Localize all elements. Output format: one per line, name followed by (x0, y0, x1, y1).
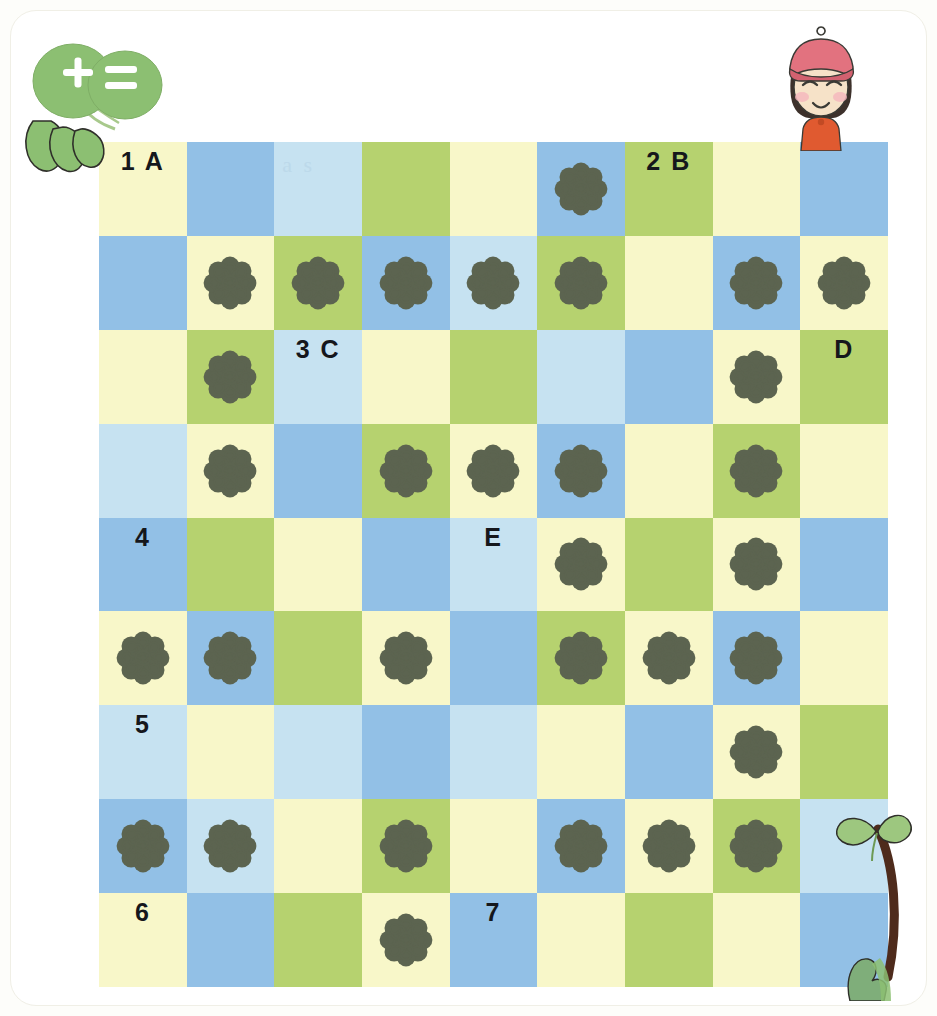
rosette-icon (551, 159, 611, 219)
grid-cell-r5-c7[interactable] (625, 518, 713, 612)
grid-cell-r7-c7[interactable] (625, 705, 713, 799)
grid-cell-r8-c8[interactable] (713, 799, 801, 893)
grid-cell-r7-c1[interactable]: 5 (99, 705, 187, 799)
rosette-icon (814, 253, 874, 313)
grid-cell-r4-c4[interactable] (362, 424, 450, 518)
grid-cell-r9-c2[interactable] (187, 893, 275, 987)
grid-cell-r3-c5[interactable] (450, 330, 538, 424)
grid-cell-r9-c5[interactable]: 7 (450, 893, 538, 987)
grid-cell-r3-c6[interactable] (537, 330, 625, 424)
grid-cell-r1-c5[interactable] (450, 142, 538, 236)
grid-cell-r7-c8[interactable] (713, 705, 801, 799)
checker-grid: 1 Aa s2 B3 CD4E567 (99, 142, 888, 987)
grid-cell-r3-c4[interactable] (362, 330, 450, 424)
grid-cell-r6-c8[interactable] (713, 611, 801, 705)
grid-cell-r4-c7[interactable] (625, 424, 713, 518)
grid-cell-r4-c2[interactable] (187, 424, 275, 518)
grid-cell-r2-c6[interactable] (537, 236, 625, 330)
clover-badge (19, 33, 169, 193)
grid-cell-r7-c9[interactable] (800, 705, 888, 799)
grid-cell-r9-c4[interactable] (362, 893, 450, 987)
rosette-icon (726, 816, 786, 876)
grid-cell-r6-c3[interactable] (274, 611, 362, 705)
grid-cell-r4-c1[interactable] (99, 424, 187, 518)
rosette-icon (200, 816, 260, 876)
cell-label: 7 (486, 900, 502, 925)
cell-label: D (834, 337, 854, 362)
grid-cell-r8-c3[interactable] (274, 799, 362, 893)
grid-cell-r4-c9[interactable] (800, 424, 888, 518)
grid-cell-r2-c3[interactable] (274, 236, 362, 330)
grid-cell-r7-c3[interactable] (274, 705, 362, 799)
grid-cell-r7-c4[interactable] (362, 705, 450, 799)
cell-label: 4 (135, 525, 151, 550)
grid-cell-r3-c2[interactable] (187, 330, 275, 424)
grid-cell-r3-c3[interactable]: 3 C (274, 330, 362, 424)
grid-cell-r8-c7[interactable] (625, 799, 713, 893)
grid-cell-r2-c8[interactable] (713, 236, 801, 330)
grid-cell-r7-c6[interactable] (537, 705, 625, 799)
grid-cell-r3-c9[interactable]: D (800, 330, 888, 424)
rosette-icon (463, 441, 523, 501)
grid-cell-r8-c4[interactable] (362, 799, 450, 893)
cell-label: 3 C (296, 337, 341, 362)
grid-cell-r8-c2[interactable] (187, 799, 275, 893)
grid-cell-r5-c3[interactable] (274, 518, 362, 612)
cell-label: 5 (135, 712, 151, 737)
grid-cell-r5-c9[interactable] (800, 518, 888, 612)
rosette-icon (726, 253, 786, 313)
grid-cell-r8-c5[interactable] (450, 799, 538, 893)
grid-cell-r9-c8[interactable] (713, 893, 801, 987)
grid-cell-r1-c7[interactable]: 2 B (625, 142, 713, 236)
grid-cell-r6-c4[interactable] (362, 611, 450, 705)
grid-cell-r8-c1[interactable] (99, 799, 187, 893)
grid-cell-r8-c6[interactable] (537, 799, 625, 893)
grid-cell-r6-c9[interactable] (800, 611, 888, 705)
rosette-icon (288, 253, 348, 313)
sprout-decoration (816, 801, 916, 1001)
rosette-icon (376, 441, 436, 501)
grid-cell-r5-c2[interactable] (187, 518, 275, 612)
grid-cell-r4-c3[interactable] (274, 424, 362, 518)
grid-cell-r1-c9[interactable] (800, 142, 888, 236)
grid-cell-r2-c2[interactable] (187, 236, 275, 330)
grid-cell-r3-c8[interactable] (713, 330, 801, 424)
grid-cell-r6-c1[interactable] (99, 611, 187, 705)
rosette-icon (200, 628, 260, 688)
grid-cell-r9-c7[interactable] (625, 893, 713, 987)
grid-cell-r2-c7[interactable] (625, 236, 713, 330)
rosette-icon (551, 534, 611, 594)
grid-cell-r6-c2[interactable] (187, 611, 275, 705)
grid-cell-r5-c5[interactable]: E (450, 518, 538, 612)
grid-cell-r2-c1[interactable] (99, 236, 187, 330)
grid-cell-r1-c3[interactable]: a s (274, 142, 362, 236)
grid-cell-r9-c6[interactable] (537, 893, 625, 987)
grid-cell-r5-c8[interactable] (713, 518, 801, 612)
grid-cell-r9-c3[interactable] (274, 893, 362, 987)
grid-cell-r4-c5[interactable] (450, 424, 538, 518)
grid-cell-r3-c7[interactable] (625, 330, 713, 424)
grid-cell-r1-c4[interactable] (362, 142, 450, 236)
grid-cell-r4-c6[interactable] (537, 424, 625, 518)
grid-cell-r7-c5[interactable] (450, 705, 538, 799)
grid-cell-r4-c8[interactable] (713, 424, 801, 518)
grid-cell-r5-c6[interactable] (537, 518, 625, 612)
grid-cell-r2-c5[interactable] (450, 236, 538, 330)
grid-cell-r1-c6[interactable] (537, 142, 625, 236)
worksheet-page: 1 Aa s2 B3 CD4E567 (10, 10, 927, 1006)
rosette-icon (726, 628, 786, 688)
grid-cell-r5-c4[interactable] (362, 518, 450, 612)
grid-cell-r5-c1[interactable]: 4 (99, 518, 187, 612)
grid-cell-r1-c2[interactable] (187, 142, 275, 236)
grid-cell-r6-c7[interactable] (625, 611, 713, 705)
grid-cell-r2-c4[interactable] (362, 236, 450, 330)
grid-cell-r3-c1[interactable] (99, 330, 187, 424)
grid-cell-r6-c5[interactable] (450, 611, 538, 705)
grid-cell-r7-c2[interactable] (187, 705, 275, 799)
grid-cell-r9-c1[interactable]: 6 (99, 893, 187, 987)
grid-cell-r1-c8[interactable] (713, 142, 801, 236)
grid-cell-r6-c6[interactable] (537, 611, 625, 705)
rosette-icon (551, 253, 611, 313)
rosette-icon (200, 441, 260, 501)
grid-cell-r2-c9[interactable] (800, 236, 888, 330)
